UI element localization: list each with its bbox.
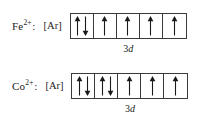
spin-up-arrow-icon bbox=[124, 16, 131, 36]
orbital-box-row bbox=[71, 73, 188, 99]
orbital-box bbox=[117, 14, 140, 38]
orbital-box bbox=[94, 14, 117, 38]
spin-down-arrow-icon bbox=[82, 16, 89, 36]
subshell-letter: d bbox=[130, 103, 135, 114]
orbital-box bbox=[141, 74, 164, 98]
orbital-box bbox=[140, 14, 163, 38]
subshell-label: 3d bbox=[125, 103, 135, 115]
label-colon: : bbox=[32, 20, 35, 32]
electron-group bbox=[101, 16, 108, 36]
spin-up-arrow-icon bbox=[147, 16, 154, 36]
spin-up-arrow-icon bbox=[149, 76, 156, 96]
orbital-box-row bbox=[70, 13, 187, 39]
electron-group bbox=[74, 16, 89, 36]
electron-group bbox=[124, 16, 131, 36]
orbital-box bbox=[118, 74, 141, 98]
orbital-box bbox=[72, 74, 95, 98]
element-symbol: Co bbox=[12, 80, 25, 92]
element-symbol: Fe bbox=[12, 20, 23, 32]
spin-up-arrow-icon bbox=[171, 16, 178, 36]
noble-gas-core-label: [Ar] bbox=[45, 73, 63, 93]
spin-up-arrow-icon bbox=[172, 76, 179, 96]
ion-charge: 2+ bbox=[23, 18, 31, 27]
noble-gas-core-label: [Ar] bbox=[44, 13, 62, 33]
species-label: Co2+: bbox=[12, 73, 37, 93]
spin-up-arrow-icon bbox=[99, 76, 106, 96]
spin-up-arrow-icon bbox=[76, 76, 83, 96]
label-colon: : bbox=[34, 80, 37, 92]
orbital-box bbox=[164, 74, 187, 98]
orbital-box bbox=[95, 74, 118, 98]
spin-up-arrow-icon bbox=[74, 16, 81, 36]
orbital-diagram-figure: Fe2+:[Ar]3dCo2+:[Ar]3d bbox=[0, 0, 213, 127]
spin-up-arrow-icon bbox=[126, 76, 133, 96]
spin-down-arrow-icon bbox=[107, 76, 114, 96]
electron-group bbox=[147, 16, 154, 36]
species-label: Fe2+: bbox=[12, 13, 36, 33]
orbital-block: 3d bbox=[71, 73, 188, 115]
orbital-block: 3d bbox=[70, 13, 187, 55]
subshell-label: 3d bbox=[123, 43, 133, 55]
spin-down-arrow-icon bbox=[84, 76, 91, 96]
spin-up-arrow-icon bbox=[101, 16, 108, 36]
electron-group bbox=[171, 16, 178, 36]
electron-group bbox=[172, 76, 179, 96]
orbital-row-co: Co2+:[Ar]3d bbox=[12, 73, 188, 115]
orbital-row-fe: Fe2+:[Ar]3d bbox=[12, 13, 187, 55]
orbital-box bbox=[163, 14, 186, 38]
electron-group bbox=[99, 76, 114, 96]
orbital-box bbox=[71, 14, 94, 38]
electron-group bbox=[126, 76, 133, 96]
ion-charge: 2+ bbox=[25, 78, 33, 87]
electron-group bbox=[149, 76, 156, 96]
electron-group bbox=[76, 76, 91, 96]
subshell-letter: d bbox=[128, 43, 133, 54]
